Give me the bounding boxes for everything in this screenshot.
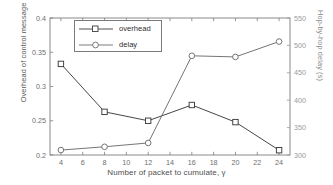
- plot-area: [0, 0, 333, 185]
- marker-overhead: [58, 61, 63, 66]
- legend: overhead delay: [74, 20, 162, 52]
- marker-overhead: [102, 109, 107, 114]
- marker-delay: [145, 140, 151, 146]
- marker-overhead: [189, 102, 194, 107]
- marker-overhead: [276, 148, 281, 153]
- marker-overhead: [145, 118, 150, 123]
- marker-overhead: [233, 119, 238, 124]
- marker-delay: [233, 54, 239, 60]
- series-line-overhead: [61, 64, 279, 150]
- legend-label-overhead: overhead: [119, 24, 151, 33]
- chart-figure: Overhead of control message (%) Hop-by-h…: [0, 0, 333, 185]
- series-line-delay: [61, 42, 279, 151]
- marker-delay: [276, 39, 282, 45]
- legend-label-delay: delay: [119, 40, 137, 49]
- marker-delay: [102, 144, 108, 150]
- legend-item-delay[interactable]: delay: [75, 37, 163, 53]
- legend-item-overhead[interactable]: overhead: [75, 21, 163, 37]
- marker-delay: [58, 147, 64, 153]
- marker-delay: [189, 53, 195, 59]
